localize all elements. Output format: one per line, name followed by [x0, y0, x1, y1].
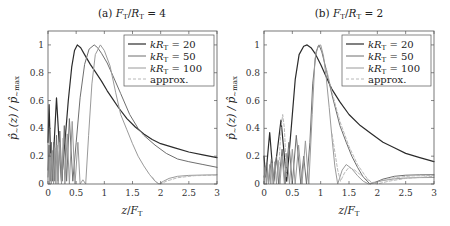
- y-tick-label: 0.8: [30, 68, 45, 78]
- x-tick-label: 3: [214, 188, 220, 198]
- panel-a-y-axis-label: p̂∼(z) / p̂∼max: [7, 76, 21, 140]
- panel-a-title: (a) FT/RT = 4: [98, 7, 166, 21]
- y-tick-label: 1: [254, 40, 260, 50]
- y-tick-label: 0.4: [246, 123, 261, 133]
- y-tick-label: 0.6: [246, 96, 261, 106]
- x-tick-label: 1: [101, 188, 107, 198]
- y-tick-label: 0.4: [30, 123, 45, 133]
- x-tick-label: 0.5: [285, 188, 300, 198]
- x-tick-label: 2.5: [182, 188, 197, 198]
- y-tick-label: 0.2: [30, 151, 44, 161]
- y-tick-label: 0.6: [30, 96, 45, 106]
- x-tick-label: 0: [45, 188, 51, 198]
- x-tick-label: 1: [318, 188, 324, 198]
- panel-a-legend: kRT = 20 kRT = 50 kRT = 100 approx.: [124, 35, 214, 86]
- panel-b-x-axis-label: z/FT: [337, 204, 359, 218]
- x-tick-label: 1.5: [342, 188, 357, 198]
- panel-b-y-axis-label: p̂∼(z) / p̂∼max: [225, 76, 239, 140]
- panel-b-title: (b) FT/RT = 2: [315, 7, 384, 21]
- figure: (a) FT/RT = 4 00.511.522.5300.20.40.60.8…: [0, 0, 450, 226]
- y-tick-label: 0.2: [246, 151, 260, 161]
- x-tick-label: 0.5: [69, 188, 84, 198]
- legend-label-approx: approx.: [368, 74, 406, 85]
- legend-label-approx: approx.: [150, 74, 188, 85]
- x-tick-label: 1.5: [125, 188, 140, 198]
- panel-b: (b) FT/RT = 2 00.511.522.5300.20.40.60.8…: [225, 7, 437, 218]
- x-tick-label: 2.5: [399, 188, 414, 198]
- panel-a-x-axis-label: z/FT: [120, 204, 142, 218]
- y-tick-label: 0: [254, 179, 260, 189]
- x-tick-label: 0: [261, 188, 267, 198]
- y-tick-label: 0.8: [246, 68, 261, 78]
- y-tick-label: 1: [38, 40, 44, 50]
- y-tick-label: 0: [38, 179, 44, 189]
- panel-b-legend: kRT = 20 kRT = 50 kRT = 100 approx.: [342, 35, 431, 86]
- x-tick-label: 3: [431, 188, 437, 198]
- x-tick-label: 2: [374, 188, 380, 198]
- panel-a: (a) FT/RT = 4 00.511.522.5300.20.40.60.8…: [7, 7, 220, 218]
- x-tick-label: 2: [158, 188, 164, 198]
